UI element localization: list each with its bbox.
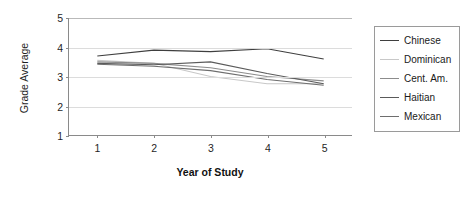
legend-item: Mexican — [375, 107, 459, 126]
y-axis-title: Grade Average — [18, 18, 30, 138]
y-tick-label: 1 — [57, 130, 63, 142]
x-tick-label: 2 — [151, 142, 157, 154]
y-tick-mark — [66, 136, 69, 137]
x-tick-label: 4 — [265, 142, 271, 154]
legend-line-swatch — [380, 116, 399, 117]
x-axis-title: Year of Study — [68, 166, 352, 178]
y-tick-label: 4 — [57, 42, 63, 54]
legend-item-label: Cent. Am. — [404, 74, 448, 84]
y-gridline — [69, 107, 352, 108]
y-tick-mark — [66, 48, 69, 49]
y-tick-mark — [66, 18, 69, 19]
legend-item-label: Haitian — [404, 93, 435, 103]
series-line — [97, 49, 323, 59]
legend-item-label: Dominican — [404, 55, 451, 65]
x-tick-mark — [97, 135, 98, 138]
y-gridline — [69, 48, 352, 49]
y-tick-label: 3 — [57, 71, 63, 83]
legend-item-label: Chinese — [404, 36, 441, 46]
x-tick-label: 3 — [208, 142, 214, 154]
legend-line-swatch — [380, 40, 399, 41]
y-tick-mark — [66, 77, 69, 78]
y-tick-mark — [66, 107, 69, 108]
legend-item: Haitian — [375, 88, 459, 107]
x-tick-mark — [211, 135, 212, 138]
x-tick-mark — [268, 135, 269, 138]
legend-line-swatch — [380, 78, 399, 79]
legend-line-swatch — [380, 97, 399, 98]
legend-line-swatch — [380, 59, 399, 60]
y-gridline — [69, 18, 352, 19]
legend-item: Dominican — [375, 50, 459, 69]
plot-area: 1234512345 — [68, 18, 352, 136]
legend-item: Chinese — [375, 31, 459, 50]
line-chart-figure: Grade Average 1234512345 Year of Study C… — [0, 0, 476, 204]
y-gridline — [69, 77, 352, 78]
y-axis-title-container: Grade Average — [0, 0, 36, 150]
y-tick-label: 2 — [57, 101, 63, 113]
x-tick-label: 5 — [322, 142, 328, 154]
x-tick-label: 1 — [94, 142, 100, 154]
legend-item: Cent. Am. — [375, 69, 459, 88]
y-tick-label: 5 — [57, 12, 63, 24]
legend-item-label: Mexican — [404, 112, 441, 122]
x-tick-mark — [154, 135, 155, 138]
x-tick-mark — [325, 135, 326, 138]
chart-legend: ChineseDominicanCent. Am.HaitianMexican — [374, 26, 460, 132]
